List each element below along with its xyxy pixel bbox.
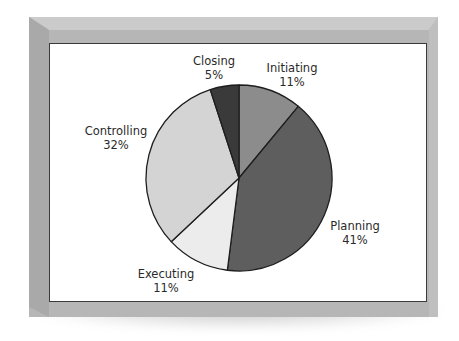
label-closing-pct: 5% bbox=[193, 68, 235, 82]
label-controlling-pct: 32% bbox=[85, 138, 148, 152]
label-planning-pct: 41% bbox=[330, 233, 380, 247]
pie-chart bbox=[0, 0, 459, 341]
label-initiating-name: Initiating bbox=[267, 61, 318, 75]
label-executing-pct: 11% bbox=[138, 281, 195, 295]
label-planning: Planning 41% bbox=[330, 219, 380, 247]
label-initiating: Initiating 11% bbox=[267, 61, 318, 89]
label-controlling: Controlling 32% bbox=[85, 124, 148, 152]
label-controlling-name: Controlling bbox=[85, 124, 148, 138]
label-closing: Closing 5% bbox=[193, 54, 235, 82]
label-executing-name: Executing bbox=[138, 267, 195, 281]
label-initiating-pct: 11% bbox=[267, 75, 318, 89]
label-closing-name: Closing bbox=[193, 54, 235, 68]
label-planning-name: Planning bbox=[330, 219, 380, 233]
label-executing: Executing 11% bbox=[138, 267, 195, 295]
